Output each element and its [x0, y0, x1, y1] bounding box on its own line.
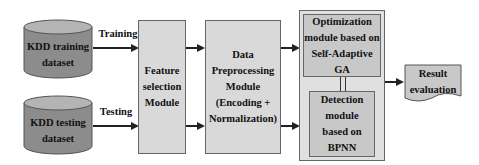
opt-line3: Self-Adaptive: [304, 46, 379, 62]
arrow-head-icon: [396, 78, 404, 86]
bidirectional-arrow-icon: [340, 77, 346, 91]
det-line3: based on: [321, 124, 364, 140]
feature-selection-module: Feature selection Module: [138, 20, 186, 154]
kdd-training-line1: KDD training: [23, 39, 93, 55]
det-line2: module: [321, 108, 364, 124]
prep-line5: Normalization): [209, 111, 277, 127]
kdd-testing-line2: dataset: [23, 131, 93, 147]
prep-line3: Module: [209, 79, 277, 95]
prep-line2: Preprocessing: [209, 63, 277, 79]
training-arrow: [93, 47, 131, 49]
result-evaluation: Result evaluation: [404, 64, 462, 104]
arrow-head-icon: [197, 122, 205, 130]
opt-line4: GA: [304, 62, 379, 78]
optimization-module: Optimization module based on Self-Adapti…: [303, 14, 381, 77]
opt-line2: module based on: [304, 30, 379, 46]
testing-arrow: [93, 125, 131, 127]
result-line1: Result: [404, 66, 462, 82]
training-edge-label: Training: [96, 26, 140, 42]
result-line2: evaluation: [404, 82, 462, 98]
det-line1: Detection: [321, 92, 364, 108]
prep-line1: Data: [209, 47, 277, 63]
kdd-training-dataset: KDD training dataset: [23, 19, 93, 79]
detection-module: Detection module based on BPNN: [309, 91, 375, 157]
prep-line4: (Encoding +: [209, 95, 277, 111]
det-line4: BPNN: [321, 140, 364, 156]
testing-edge-label: Testing: [96, 104, 136, 120]
kdd-training-line2: dataset: [23, 55, 93, 71]
kdd-testing-dataset: KDD testing dataset: [23, 95, 93, 155]
feature-line1: Feature: [143, 63, 182, 79]
arrow-head-icon: [197, 44, 205, 52]
feature-line3: Module: [143, 95, 182, 111]
opt-line1: Optimization: [304, 14, 379, 30]
feature-line2: selection: [143, 79, 182, 95]
data-preprocessing-module: Data Preprocessing Module (Encoding + No…: [205, 20, 281, 154]
kdd-testing-line1: KDD testing: [23, 115, 93, 131]
